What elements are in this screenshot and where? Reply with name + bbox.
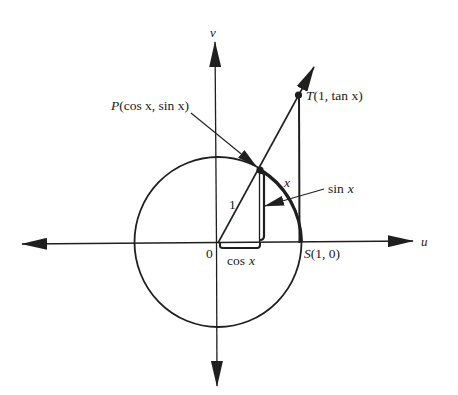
sin-x-label: sinx	[328, 181, 354, 196]
sin-leader-arrow	[265, 189, 324, 206]
u-axis-line-left	[22, 243, 218, 245]
arc-x-label: x	[283, 175, 290, 190]
cos-fn: cos	[227, 253, 245, 268]
P-letter: P	[110, 98, 119, 113]
vertical-axis-v	[215, 42, 217, 386]
v-axis-line-up	[215, 42, 217, 243]
unit-circle-diagram: v u P(cos x, sin x) T(1, tan x) S(1, 0) …	[0, 0, 458, 395]
point-S-label: S(1, 0)	[304, 246, 340, 261]
tangent-segment-TS	[299, 94, 300, 243]
point-P-label: P(cos x, sin x)	[110, 98, 189, 113]
P-coords: (cos x, sin x)	[119, 98, 189, 113]
origin-label: 0	[206, 246, 213, 261]
point-P-dot	[256, 166, 263, 173]
sin-fn: sin	[328, 181, 344, 196]
sin-var: x	[347, 181, 354, 196]
u-axis-label: u	[421, 234, 428, 249]
v-axis-line-down	[217, 243, 218, 386]
v-axis-label: v	[210, 25, 216, 40]
point-T-label: T(1, tan x)	[306, 88, 363, 103]
S-coords: (1, 0)	[311, 246, 340, 261]
cos-x-label: cosx	[227, 253, 255, 268]
sin-bracket	[260, 173, 264, 240]
u-axis-line-right	[218, 241, 413, 243]
cos-var: x	[248, 253, 255, 268]
T-coords: (1, tan x)	[314, 88, 363, 103]
point-T-dot	[295, 91, 302, 98]
radius-label: 1	[229, 197, 236, 212]
